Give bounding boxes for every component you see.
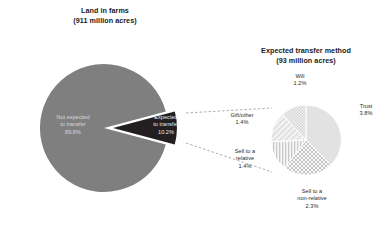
left-chart-title: Land in farms (911 million acres) xyxy=(38,6,172,25)
label-sell-relative-line1: Sell to a xyxy=(222,148,268,155)
label-sell-relative-value: 1.4% xyxy=(222,163,268,170)
left-chart-title-line2: (911 million acres) xyxy=(38,16,172,26)
right-chart-title-line2: (93 million acres) xyxy=(236,56,376,66)
pie-chart-figure: Land in farms (911 million acres) Expect… xyxy=(0,0,388,245)
right-pie xyxy=(271,105,341,175)
label-sell-non-relative-line1: Sell to a xyxy=(285,188,339,195)
label-not-expected-line2: to transfer xyxy=(38,121,108,128)
left-chart-title-line1: Land in farms xyxy=(38,6,172,16)
label-gift-other-value: 1.4% xyxy=(216,119,268,126)
label-sell-relative: Sell to a relative 1.4% xyxy=(222,148,268,170)
label-sell-non-relative: Sell to a non-relative 2.3% xyxy=(285,188,339,210)
label-expected-line2: to transfer xyxy=(136,121,196,128)
label-expected-to-transfer: Expected to transfer 10.2% xyxy=(136,114,196,136)
label-will-text: Will xyxy=(283,73,317,80)
label-trust: Trust 3.8% xyxy=(349,103,383,118)
label-expected-value: 10.2% xyxy=(136,129,196,136)
label-not-expected-line1: Not expected xyxy=(38,114,108,121)
label-gift-other: Gift/other 1.4% xyxy=(216,112,268,127)
label-sell-non-relative-value: 2.3% xyxy=(285,203,339,210)
label-will-value: 1.2% xyxy=(283,80,317,87)
label-gift-other-text: Gift/other xyxy=(216,112,268,119)
right-chart-title: Expected transfer method (93 million acr… xyxy=(236,46,376,65)
label-trust-text: Trust xyxy=(349,103,383,110)
right-chart-title-line1: Expected transfer method xyxy=(236,46,376,56)
label-sell-non-relative-line2: non-relative xyxy=(285,195,339,202)
label-not-expected-value: 89.8% xyxy=(38,129,108,136)
label-will: Will 1.2% xyxy=(283,73,317,88)
label-trust-value: 3.8% xyxy=(349,110,383,117)
label-not-expected-to-transfer: Not expected to transfer 89.8% xyxy=(38,114,108,136)
label-sell-relative-line2: relative xyxy=(222,155,268,162)
label-expected-line1: Expected xyxy=(136,114,196,121)
